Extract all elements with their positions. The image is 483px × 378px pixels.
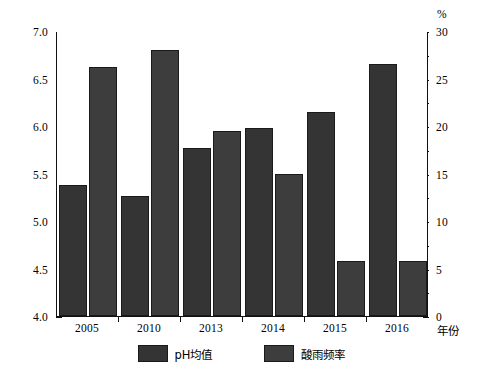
x-axis-tick-label: 2010: [137, 322, 161, 334]
x-axis-title: 年份: [437, 322, 459, 338]
x-axis-tick-label: 2013: [199, 322, 223, 334]
x-axis-tick-label: 2016: [385, 322, 409, 334]
left-axis-tick-label: 6.0: [33, 121, 48, 133]
x-axis-tick-label: 2015: [323, 322, 347, 334]
bar-acid-rain-frequency: [275, 174, 303, 317]
left-axis-labels: 4.04.55.05.56.06.57.0: [8, 32, 48, 317]
bar-ph-mean: [121, 196, 149, 316]
plot-area: [56, 32, 428, 317]
x-axis-tick-label: 2014: [261, 322, 285, 334]
left-axis-tick-label: 4.5: [33, 264, 48, 276]
bar-group: [245, 32, 303, 316]
bar-ph-mean: [245, 128, 273, 316]
bars-layer: [57, 32, 427, 316]
left-axis-tick-label: 5.5: [33, 169, 48, 181]
bar-group: [183, 32, 241, 316]
legend-label: pH均值: [175, 346, 213, 362]
left-axis-tick-label: 6.5: [33, 74, 48, 86]
right-axis-tick-label: 15: [436, 169, 448, 181]
bar-ph-mean: [183, 148, 211, 316]
legend-label: 酸雨频率: [301, 346, 345, 362]
legend-swatch: [138, 345, 168, 362]
right-axis-tick-label: 30: [436, 26, 448, 38]
chart-legend: pH均值酸雨频率: [0, 345, 483, 362]
right-axis-tick-label: 10: [436, 216, 448, 228]
bar-chart: % 4.04.55.05.56.06.57.0 051015202530 200…: [0, 0, 483, 378]
bar-group: [121, 32, 179, 316]
bar-acid-rain-frequency: [213, 131, 241, 316]
bar-acid-rain-frequency: [399, 261, 427, 316]
legend-entry: 酸雨频率: [264, 345, 345, 362]
right-axis-tick-label: 25: [436, 74, 448, 86]
bar-group: [59, 32, 117, 316]
bar-group: [369, 32, 427, 316]
right-axis-labels: 051015202530: [436, 32, 480, 317]
bar-ph-mean: [307, 112, 335, 316]
x-axis-tick-label: 2005: [75, 322, 99, 334]
bar-ph-mean: [59, 185, 87, 316]
left-axis-tick-label: 5.0: [33, 216, 48, 228]
bar-acid-rain-frequency: [151, 50, 179, 316]
bar-acid-rain-frequency: [337, 261, 365, 316]
legend-entry: pH均值: [138, 345, 213, 362]
bar-ph-mean: [369, 64, 397, 316]
right-axis-tick-label: 20: [436, 121, 448, 133]
legend-swatch: [264, 345, 294, 362]
left-axis-tick-label: 7.0: [33, 26, 48, 38]
right-axis-tick-label: 5: [436, 264, 442, 276]
left-axis-tick-label: 4.0: [33, 311, 48, 323]
right-axis-unit-label: %: [437, 8, 447, 20]
x-axis-labels: 200520102013201420152016: [56, 322, 428, 340]
bar-acid-rain-frequency: [89, 67, 117, 316]
bar-group: [307, 32, 365, 316]
